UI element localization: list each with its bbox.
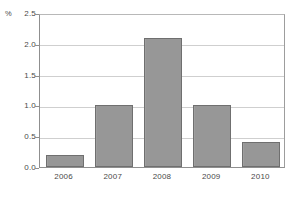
- y-axis-tick-label: 1.0: [6, 102, 36, 110]
- y-axis-tick-mark: [35, 168, 39, 169]
- bar: [242, 142, 280, 167]
- bar-fill: [96, 106, 132, 166]
- bar-fill: [145, 39, 181, 166]
- x-axis-tick-label: 2008: [137, 172, 186, 181]
- y-axis-tick-label: 0.0: [6, 164, 36, 172]
- x-axis-tick-label: 2006: [39, 172, 88, 181]
- plot-area: [39, 14, 285, 168]
- bar: [46, 155, 84, 167]
- bar-fill: [243, 143, 279, 166]
- y-axis-tick-label: 2.5: [6, 10, 36, 18]
- bar: [95, 105, 133, 167]
- y-axis-tick-label: 2.0: [6, 41, 36, 49]
- x-axis-tick-label: 2009: [187, 172, 236, 181]
- x-axis-tick-label: 2007: [88, 172, 137, 181]
- bar-fill: [194, 106, 230, 166]
- y-axis-tick-label: 1.5: [6, 72, 36, 80]
- bar-fill: [47, 156, 83, 166]
- bar-chart: % 0.00.51.01.52.02.5 2006200720082009201…: [0, 0, 301, 198]
- x-axis-tick-label: 2010: [236, 172, 285, 181]
- y-axis-tick-label: 0.5: [6, 133, 36, 141]
- bar: [144, 38, 182, 167]
- bar: [193, 105, 231, 167]
